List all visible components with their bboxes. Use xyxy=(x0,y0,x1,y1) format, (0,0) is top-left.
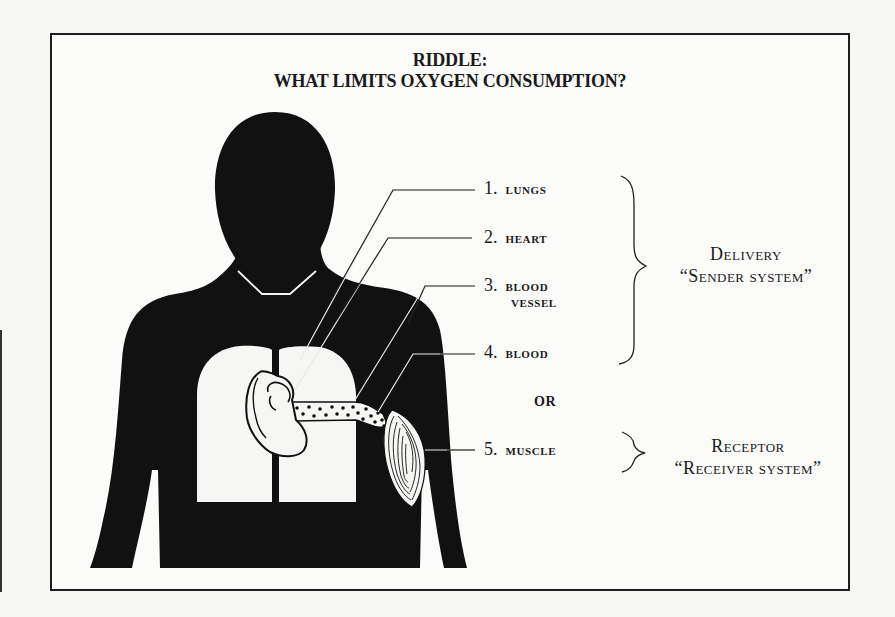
or-separator: OR xyxy=(534,394,556,410)
body-figure xyxy=(0,0,895,617)
label-text: MUSCLE xyxy=(506,442,557,458)
receptor-brace xyxy=(622,432,645,472)
label-text: HEART xyxy=(506,230,548,246)
label-blood: 4.BLOOD xyxy=(484,342,548,363)
receptor-subtitle: “Receiver system” xyxy=(650,457,846,479)
label-text: BLOOD xyxy=(506,345,549,361)
label-number: 3. xyxy=(484,275,498,295)
label-continuation: VESSEL xyxy=(484,294,557,311)
label-blood-vessel: 3.BLOOD VESSEL xyxy=(484,275,557,311)
label-lungs: 1.LUNGS xyxy=(484,178,546,199)
label-number: 4. xyxy=(484,342,498,362)
delivery-title: Delivery xyxy=(652,243,840,265)
delivery-brace xyxy=(619,176,646,364)
label-heart: 2.HEART xyxy=(484,227,547,248)
label-number: 2. xyxy=(484,227,498,247)
label-number: 5. xyxy=(484,439,498,459)
delivery-subtitle: “Sender system” xyxy=(652,265,840,287)
label-number: 1. xyxy=(484,178,498,198)
receptor-title: Receptor xyxy=(650,435,846,457)
receptor-group-caption: Receptor “Receiver system” xyxy=(650,435,846,479)
label-text: BLOOD xyxy=(506,278,549,294)
delivery-group-caption: Delivery “Sender system” xyxy=(652,243,840,287)
label-muscle: 5.MUSCLE xyxy=(484,439,556,460)
label-text: LUNGS xyxy=(506,181,547,197)
